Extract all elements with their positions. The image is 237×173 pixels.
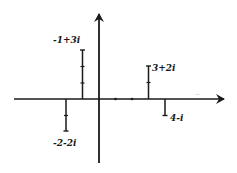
label-neg2-minus-2i: -2-2i xyxy=(53,138,77,148)
label-4-minus-i: 4-i xyxy=(170,113,184,123)
complex-plane-diagram: -1+3i 3+2i -2-2i 4-i .. xyxy=(0,0,237,173)
tick-re-1 xyxy=(114,98,117,101)
label-3-plus-2i: 3+2i xyxy=(152,63,176,73)
point-neg1-plus-3i xyxy=(80,50,85,99)
stray-mark: .. xyxy=(195,89,199,97)
point-3-plus-2i xyxy=(146,66,151,99)
point-4-minus-i xyxy=(163,99,168,116)
diagram-canvas: -1+3i 3+2i -2-2i 4-i .. xyxy=(0,0,237,173)
label-neg1-plus-3i: -1+3i xyxy=(53,35,81,45)
tick-re-2 xyxy=(131,98,134,101)
point-neg2-minus-2i xyxy=(64,99,69,131)
